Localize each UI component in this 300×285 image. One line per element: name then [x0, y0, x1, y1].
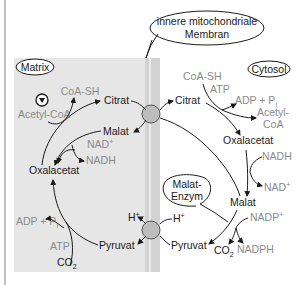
cytosol-oxalacetat: Oxalacetat [223, 134, 273, 146]
cytosol-co2: CO2 [214, 244, 234, 258]
regulation-icon [36, 94, 48, 106]
cytosol-pyruvat: Pyruvat [171, 239, 207, 251]
matrix-pyruvat: Pyruvat [99, 239, 135, 251]
membrane-callout: innere mitochondriale Membran [146, 11, 264, 58]
cytosol-coa-sh: CoA-SH [183, 70, 222, 82]
pyruvate-transporter [142, 221, 160, 239]
membrane-label-line2: Membran [185, 28, 230, 40]
matrix-label: Matrix [16, 59, 54, 75]
cytosol-nad-plus: NAD+ [264, 181, 290, 193]
svg-text:Malat-: Malat- [172, 178, 202, 190]
matrix-coa-sh: CoA-SH [61, 85, 100, 97]
svg-text:Matrix: Matrix [21, 61, 50, 73]
cytosol-nadp-plus: NADP+ [250, 211, 283, 223]
cytosol-nadh: NADH [262, 150, 292, 162]
cytosol-citrat: Citrat [175, 94, 200, 106]
matrix-acetyl-coa: Acetyl-CoA [18, 108, 71, 120]
matrix-citrat: Citrat [104, 94, 129, 106]
cytosol-malat: Malat [230, 196, 256, 208]
cytosol-h-plus: H+ [173, 212, 185, 224]
cytosol-acetyl-coa-1: Acetyl- [257, 106, 290, 118]
membrane-label-line1: innere mitochondriale [157, 15, 258, 27]
cytosol-label: Cytosol [248, 61, 290, 77]
matrix-atp: ATP [50, 240, 70, 252]
cytosol-acetyl-coa-2: CoA [263, 118, 283, 130]
matrix-nadh: NADH [86, 154, 116, 166]
citrate-transporter [142, 105, 160, 123]
citrate-malate-pyruvate-shuttle-diagram: innere mitochondriale Membran Matrix Cyt… [0, 0, 300, 285]
cytosol-atp: ATP [210, 83, 230, 95]
matrix-adp-pi: ADP + Pi [16, 215, 58, 229]
svg-text:Cytosol: Cytosol [251, 63, 286, 75]
cytosol-nadph: NADPH [237, 243, 274, 255]
svg-text:Enzym: Enzym [171, 190, 203, 202]
inner-membrane [145, 58, 160, 272]
matrix-oxalacetat: Oxalacetat [29, 164, 79, 176]
matrix-malat: Malat [103, 125, 129, 137]
